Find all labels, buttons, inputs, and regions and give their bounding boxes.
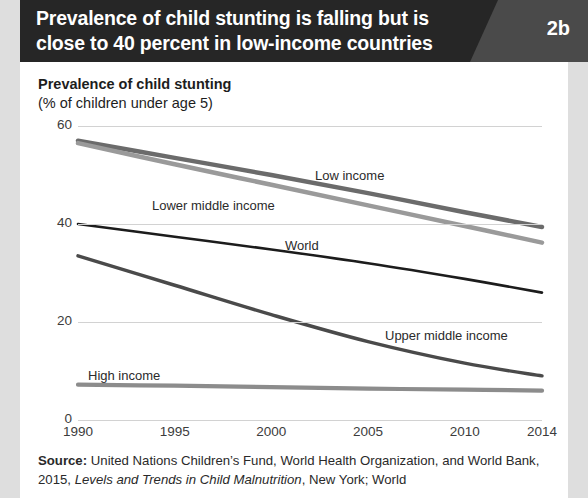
figure-card — [20, 0, 568, 498]
source-note: Source: United Nations Children’s Fund, … — [38, 452, 556, 489]
source-label: Source: — [38, 453, 87, 468]
source-italic-title: Levels and Trends in Child Malnutrition — [75, 472, 302, 487]
chart-title-line2: (% of children under age 5) — [38, 95, 213, 111]
figure-banner: Prevalence of child stunting is falling … — [20, 0, 588, 62]
banner-title: Prevalence of child stunting is falling … — [36, 6, 456, 56]
banner-number-wedge — [470, 0, 588, 62]
chart-title-line1: Prevalence of child stunting — [38, 76, 231, 92]
page-background: Prevalence of child stunting is falling … — [0, 0, 588, 498]
banner-number: 2b — [547, 17, 570, 40]
source-text-b: , New York; World — [302, 472, 407, 487]
